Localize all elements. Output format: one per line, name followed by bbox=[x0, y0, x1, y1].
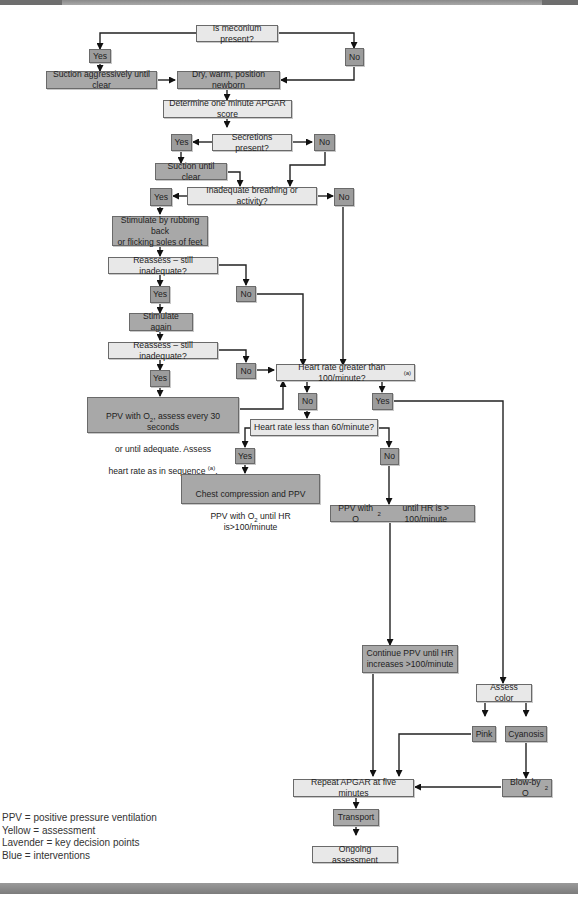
node-meconium-present: Is meconium present? bbox=[196, 25, 278, 42]
legend-item-yellow: Yellow = assessment bbox=[2, 825, 157, 838]
node-ppv-assess-every-30s: PPV with O2, assess every 30 seconds or … bbox=[87, 397, 239, 433]
node-suction-until-clear: Suction until clear bbox=[155, 163, 227, 180]
node-reassess-1: Reassess – still inadequate? bbox=[108, 257, 218, 274]
text: PPV with O bbox=[210, 511, 254, 521]
legend-item-lavender: Lavender = key decision points bbox=[2, 837, 157, 850]
node-inadequate-no: No bbox=[334, 188, 354, 206]
node-inadequate-breathing: Inadequate breathing or activity? bbox=[187, 187, 317, 205]
node-assess-color: Assess color bbox=[476, 684, 532, 702]
node-secretions-present: Secretions present? bbox=[212, 134, 292, 151]
text: PPV with O bbox=[334, 503, 377, 525]
node-transport: Transport bbox=[333, 809, 379, 826]
node-inadequate-yes: Yes bbox=[150, 188, 172, 206]
node-reassess-2-no: No bbox=[236, 363, 256, 379]
text: Chest compression and PPV bbox=[185, 489, 316, 500]
node-reassess-2: Reassess – still inadequate? bbox=[108, 342, 218, 359]
legend-item-blue: Blue = interventions bbox=[2, 850, 157, 863]
text: , assess every 30 seconds bbox=[147, 411, 220, 432]
legend: PPV = positive pressure ventilation Yell… bbox=[2, 812, 157, 862]
node-repeat-apgar-five-minutes: Repeat APGAR at five minutes bbox=[293, 779, 414, 797]
node-stimulate-rubbing: Stimulate by rubbing back or flicking so… bbox=[112, 216, 208, 246]
node-chest-compression: Chest compression and PPV PPV with O2 un… bbox=[181, 474, 320, 504]
top-banner-tab-left bbox=[0, 0, 62, 5]
node-hr60-no: No bbox=[380, 448, 399, 465]
text: or until adequate. Assess bbox=[91, 444, 235, 455]
node-blow-by-o2: Blow-by O2 bbox=[502, 779, 552, 797]
node-hr-greater-than-100: Heart rate greater than 100/minute?(a) bbox=[276, 364, 415, 381]
node-pink: Pink bbox=[472, 726, 496, 742]
node-hr100-yes: Yes bbox=[372, 393, 393, 410]
node-ongoing-assessment: Ongoing assessment bbox=[312, 846, 398, 863]
node-hr100-no: No bbox=[298, 393, 317, 410]
text: until HR is > 100/minute bbox=[381, 503, 471, 525]
text: PPV with O bbox=[106, 411, 150, 421]
legend-item-ppv: PPV = positive pressure ventilation bbox=[2, 812, 157, 825]
node-meconium-no: No bbox=[345, 48, 364, 66]
node-secretions-no: No bbox=[314, 134, 335, 151]
top-banner bbox=[0, 0, 578, 5]
node-ppv-until-hr-100: PPV with O2 until HR is > 100/minute bbox=[330, 505, 475, 522]
text: Blow-by O bbox=[506, 777, 545, 799]
top-banner-tab-right bbox=[542, 0, 578, 5]
text: Heart rate greater than 100/minute? bbox=[280, 362, 404, 384]
node-secretions-yes: Yes bbox=[171, 134, 192, 151]
node-reassess-2-yes: Yes bbox=[150, 370, 170, 387]
node-stimulate-again: Stimulate again bbox=[129, 313, 193, 331]
node-one-minute-apgar: Determine one minute APGAR score bbox=[163, 100, 292, 118]
bottom-banner bbox=[0, 883, 578, 894]
node-cyanosis: Cyanosis bbox=[505, 726, 547, 742]
node-reassess-1-no: No bbox=[236, 286, 256, 302]
node-meconium-yes: Yes bbox=[89, 49, 111, 63]
node-reassess-1-yes: Yes bbox=[150, 286, 170, 303]
node-dry-warm-position: Dry, warm, position newborn bbox=[177, 71, 280, 89]
node-continue-ppv: Continue PPV until HR increases >100/min… bbox=[362, 645, 458, 673]
node-hr60-yes: Yes bbox=[235, 448, 255, 464]
node-suction-aggressively: Suction aggressively until clear bbox=[46, 71, 157, 89]
node-hr-less-than-60: Heart rate less than 60/minute? bbox=[250, 419, 378, 436]
